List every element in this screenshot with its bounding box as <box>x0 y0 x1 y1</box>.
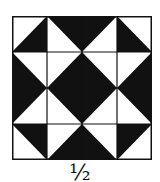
fraction-label: ½ <box>0 160 160 182</box>
quilt-block-diagram <box>12 16 152 160</box>
